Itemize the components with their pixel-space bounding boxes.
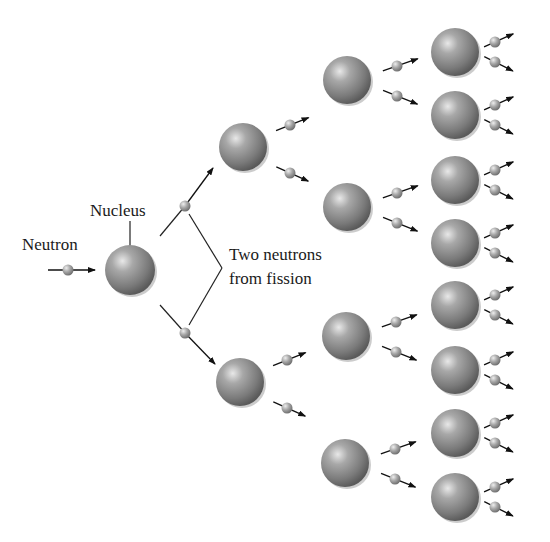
connector-line xyxy=(189,214,222,268)
neutron-sphere xyxy=(63,265,74,276)
nucleus-sphere xyxy=(216,358,264,406)
nucleus-sphere xyxy=(431,281,479,329)
neutron-sphere xyxy=(490,57,501,68)
neutron-sphere xyxy=(180,201,191,212)
neutron-sphere xyxy=(490,310,501,321)
neutron-sphere xyxy=(490,355,501,366)
nucleus-sphere xyxy=(431,91,479,139)
nucleus-sphere xyxy=(219,123,267,171)
neutron-sphere xyxy=(490,37,501,48)
two-neutrons-label-line1: Two neutrons xyxy=(229,245,322,264)
neutron-sphere xyxy=(490,482,501,493)
nucleus-sphere xyxy=(321,439,369,487)
nucleus-sphere xyxy=(431,473,479,521)
neutron-label: Neutron xyxy=(22,235,78,254)
nucleus-sphere xyxy=(105,245,155,295)
neutron-sphere xyxy=(490,438,501,449)
two-neutrons-label-line2: from fission xyxy=(229,269,312,288)
neutron-sphere xyxy=(490,248,501,259)
nucleus-label: Nucleus xyxy=(90,201,146,220)
neutron-sphere xyxy=(392,188,403,199)
neutron-sphere xyxy=(180,328,191,339)
neutron-sphere xyxy=(285,120,296,131)
neutron-sphere xyxy=(285,168,296,179)
neutron-sphere xyxy=(490,375,501,386)
neutron-sphere xyxy=(282,403,293,414)
nucleus-sphere xyxy=(323,56,371,104)
neutron-sphere xyxy=(490,165,501,176)
nucleus-sphere xyxy=(322,312,370,360)
neutron-sphere xyxy=(391,317,402,328)
arrow-line xyxy=(185,168,213,206)
nucleus-sphere xyxy=(431,156,479,204)
neutron-sphere xyxy=(490,228,501,239)
nucleus-sphere xyxy=(431,219,479,267)
neutron-sphere xyxy=(390,474,401,485)
neutron-sphere xyxy=(490,100,501,111)
arrow-line xyxy=(185,333,215,364)
neutron-sphere xyxy=(282,355,293,366)
neutron-sphere xyxy=(392,218,403,229)
neutron-sphere xyxy=(390,444,401,455)
neutron-sphere xyxy=(490,120,501,131)
neutron-sphere xyxy=(490,185,501,196)
fission-chain-diagram: Neutron Nucleus Two neutrons from fissio… xyxy=(0,0,550,542)
neutron-sphere xyxy=(490,418,501,429)
neutron-sphere xyxy=(391,347,402,358)
neutron-sphere xyxy=(490,290,501,301)
neutron-sphere xyxy=(392,61,403,72)
neutron-sphere xyxy=(392,91,403,102)
nucleus-sphere xyxy=(431,346,479,394)
nucleus-sphere xyxy=(431,409,479,457)
connector-line xyxy=(160,305,185,333)
connector-line xyxy=(160,206,185,236)
connector-line xyxy=(189,268,222,325)
neutron-sphere xyxy=(490,502,501,513)
nucleus-sphere xyxy=(431,28,479,76)
nucleus-sphere xyxy=(323,183,371,231)
